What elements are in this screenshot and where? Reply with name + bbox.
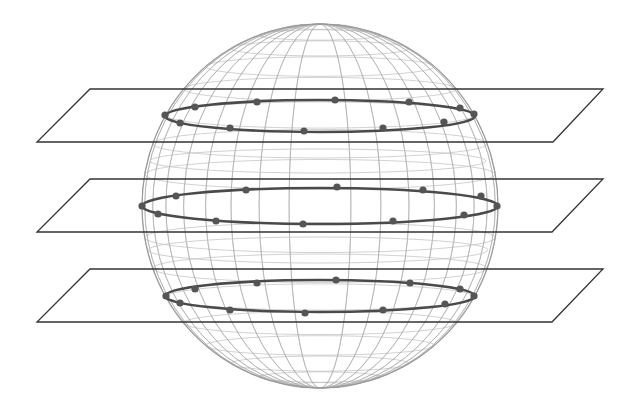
- sample-point-dot: [331, 96, 338, 103]
- sample-point-dot: [332, 276, 339, 283]
- sample-point-dot: [419, 186, 426, 193]
- latitude-line: [153, 130, 488, 158]
- meridian-line: [142, 24, 498, 388]
- meridian-line: [289, 24, 351, 388]
- plane-bottom: [37, 269, 603, 322]
- sample-point-dot: [379, 306, 386, 313]
- sample-point-dot: [493, 202, 500, 209]
- sample-point-dot: [460, 211, 467, 218]
- sample-point-dot: [470, 110, 477, 117]
- meridian-line: [259, 24, 381, 388]
- latitude-line: [231, 356, 409, 371]
- intersection-ellipse: [165, 100, 475, 132]
- latitude-line: [145, 223, 496, 253]
- latitude-line: [166, 284, 474, 310]
- sample-point-dot: [242, 186, 249, 193]
- latitude-line: [259, 372, 381, 382]
- sample-point-dot: [405, 98, 412, 105]
- sample-point-dot: [333, 183, 340, 190]
- latitude-line: [231, 41, 409, 56]
- meridian-line: [145, 24, 496, 388]
- latitude-line: [206, 336, 435, 355]
- meridian-line: [166, 24, 474, 388]
- sample-point-dot: [162, 292, 169, 299]
- meridian-line: [184, 24, 457, 388]
- latitude-line: [166, 102, 474, 128]
- sample-point-dot: [299, 220, 306, 227]
- meridian-line: [166, 24, 474, 388]
- meridian-line: [145, 24, 496, 388]
- intersection-ellipse: [165, 280, 475, 312]
- sample-point-dot: [226, 306, 233, 313]
- sample-point-dot: [176, 119, 183, 126]
- faint-latitude-rings: [148, 149, 488, 263]
- meridian-line: [206, 24, 435, 388]
- sample-point-dot: [477, 192, 484, 199]
- wireframe-sphere: [142, 24, 498, 388]
- meridian-line: [153, 24, 488, 388]
- sample-point-dot: [154, 210, 161, 217]
- latitude-line: [184, 311, 457, 334]
- meridian-line: [184, 24, 457, 388]
- sample-point-dot: [253, 98, 260, 105]
- sample-point-dot: [441, 300, 448, 307]
- sample-point-dot: [191, 285, 198, 292]
- diagram-canvas: [0, 0, 636, 412]
- sample-point-dot: [456, 285, 463, 292]
- ring-middle: [138, 183, 500, 227]
- meridian-line: [206, 24, 435, 388]
- sample-point-dot: [406, 279, 413, 286]
- plane-top: [37, 89, 603, 142]
- sphere-outline: [142, 24, 498, 388]
- sample-point-dot: [470, 292, 477, 299]
- meridian-line: [259, 24, 381, 388]
- sample-point-dot: [138, 202, 145, 209]
- latitude-line: [145, 160, 496, 190]
- sample-point-dot: [379, 124, 386, 131]
- sample-point-dot: [440, 118, 447, 125]
- slicing-planes: [37, 89, 603, 322]
- faint-latitude-ellipse: [148, 237, 488, 263]
- latitude-line: [153, 254, 488, 282]
- meridian-line: [289, 24, 351, 388]
- latitude-line: [259, 30, 381, 40]
- faint-latitude-ellipse: [150, 149, 486, 173]
- latitude-line: [206, 57, 435, 76]
- sample-point-dot: [456, 104, 463, 111]
- sample-point-dot: [253, 279, 260, 286]
- sample-point-dot: [191, 103, 198, 110]
- sample-point-dot: [212, 217, 219, 224]
- sample-point-dot: [226, 124, 233, 131]
- sample-point-dot: [172, 192, 179, 199]
- intersection-ellipse: [142, 188, 498, 224]
- sample-point-dot: [301, 309, 308, 316]
- sample-point-dot: [300, 127, 307, 134]
- sample-point-dot: [176, 299, 183, 306]
- sample-point-dot: [161, 111, 168, 118]
- sample-point-dot: [389, 217, 396, 224]
- sphere-slicing-diagram: [0, 0, 636, 412]
- meridian-line: [153, 24, 488, 388]
